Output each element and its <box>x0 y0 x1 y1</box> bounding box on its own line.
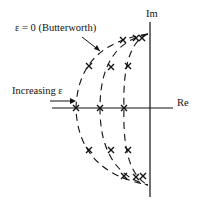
pole-plot <box>0 0 197 208</box>
inner-curve <box>124 34 148 185</box>
butterworth-curve <box>76 34 148 185</box>
middle-curve <box>100 34 148 185</box>
